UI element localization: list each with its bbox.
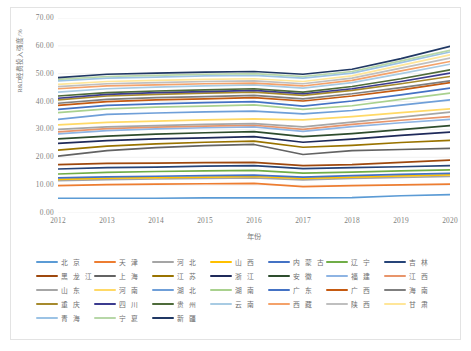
legend-color-swatch xyxy=(152,317,174,320)
legend-item[interactable]: 安 徽 xyxy=(268,271,326,281)
legend-color-swatch xyxy=(36,289,58,292)
legend-item[interactable]: 广 西 xyxy=(326,285,384,295)
x-axis-tick-label: 2013 xyxy=(87,216,127,225)
legend-item[interactable]: 江 苏 xyxy=(152,271,210,281)
x-axis-title: 年份 xyxy=(58,230,450,241)
legend-item[interactable]: 广 东 xyxy=(268,285,326,295)
legend-item[interactable]: 陕 西 xyxy=(326,299,384,309)
series-line xyxy=(58,166,450,169)
legend-item[interactable]: 湖 南 xyxy=(210,285,268,295)
data-series-group xyxy=(58,46,450,198)
legend-color-swatch xyxy=(152,275,174,278)
legend-row: 重 庆四 川贵 州云 南西 藏陕 西甘 肃 xyxy=(36,297,442,311)
x-axis-tick-label: 2019 xyxy=(381,216,421,225)
legend-color-swatch xyxy=(210,289,232,292)
legend-color-swatch xyxy=(384,261,406,264)
legend-label: 新 疆 xyxy=(177,313,198,323)
legend-color-swatch xyxy=(210,261,232,264)
legend-color-swatch xyxy=(210,275,232,278)
legend-item[interactable]: 西 藏 xyxy=(268,299,326,309)
legend-color-swatch xyxy=(36,317,58,320)
legend-item[interactable]: 上 海 xyxy=(94,271,152,281)
legend-label: 天 津 xyxy=(119,257,140,267)
x-axis-tick-label: 2017 xyxy=(283,216,323,225)
legend-item[interactable]: 浙 江 xyxy=(210,271,268,281)
x-axis-tick-label: 2015 xyxy=(185,216,225,225)
legend-row: 山 东河 南湖 北湖 南广 东广 西海 南 xyxy=(36,283,442,297)
legend-label: 黑 龙 江 xyxy=(61,271,93,281)
legend-label: 湖 南 xyxy=(235,285,256,295)
legend-item[interactable]: 山 西 xyxy=(210,257,268,267)
legend-color-swatch xyxy=(94,303,116,306)
legend-item[interactable]: 福 建 xyxy=(326,271,384,281)
legend-label: 河 北 xyxy=(177,257,198,267)
x-axis-tick-label: 2016 xyxy=(234,216,274,225)
legend-label: 青 海 xyxy=(61,313,82,323)
legend-label: 内 蒙 古 xyxy=(293,257,325,267)
legend-item[interactable]: 宁 夏 xyxy=(94,313,152,323)
legend-item[interactable]: 重 庆 xyxy=(36,299,94,309)
legend-item[interactable]: 河 南 xyxy=(94,285,152,295)
y-axis-tick-label: 10.00 xyxy=(8,180,54,189)
legend-color-swatch xyxy=(384,303,406,306)
legend-label: 辽 宁 xyxy=(351,257,372,267)
legend-label: 吉 林 xyxy=(409,257,430,267)
legend-label: 四 川 xyxy=(119,299,140,309)
legend-color-swatch xyxy=(326,275,348,278)
legend-item[interactable]: 贵 州 xyxy=(152,299,210,309)
legend-item[interactable]: 湖 北 xyxy=(152,285,210,295)
legend-item[interactable]: 甘 肃 xyxy=(384,299,442,309)
legend-item[interactable]: 内 蒙 古 xyxy=(268,257,326,267)
legend-label: 广 东 xyxy=(293,285,314,295)
legend-label: 江 西 xyxy=(409,271,430,281)
legend-item[interactable]: 辽 宁 xyxy=(326,257,384,267)
plot-area xyxy=(58,18,450,213)
series-line xyxy=(58,170,450,174)
legend-color-swatch xyxy=(152,303,174,306)
y-axis-tick-label: 20.00 xyxy=(8,152,54,161)
legend-label: 浙 江 xyxy=(235,271,256,281)
legend-label: 山 东 xyxy=(61,285,82,295)
legend-label: 云 南 xyxy=(235,299,256,309)
legend-color-swatch xyxy=(210,303,232,306)
legend-item[interactable]: 黑 龙 江 xyxy=(36,271,94,281)
legend-item[interactable]: 新 疆 xyxy=(152,313,210,323)
legend-item[interactable]: 海 南 xyxy=(384,285,442,295)
legend-color-swatch xyxy=(94,317,116,320)
x-axis-tick-label: 2020 xyxy=(430,216,470,225)
legend-item[interactable]: 天 津 xyxy=(94,257,152,267)
series-line xyxy=(58,195,450,199)
legend-item[interactable]: 云 南 xyxy=(210,299,268,309)
legend-label: 甘 肃 xyxy=(409,299,430,309)
chart-legend: 北 京天 津河 北山 西内 蒙 古辽 宁吉 林黑 龙 江上 海江 苏浙 江安 徽… xyxy=(36,255,442,325)
legend-label: 湖 北 xyxy=(177,285,198,295)
legend-color-swatch xyxy=(268,303,290,306)
legend-color-swatch xyxy=(268,289,290,292)
legend-item[interactable]: 江 西 xyxy=(384,271,442,281)
legend-color-swatch xyxy=(36,303,58,306)
chart-figure: 0.0010.0020.0030.0040.0050.0060.0070.00 … xyxy=(0,0,471,351)
y-axis-tick-label: 30.00 xyxy=(8,124,54,133)
legend-label: 河 南 xyxy=(119,285,140,295)
legend-color-swatch xyxy=(268,275,290,278)
legend-color-swatch xyxy=(384,275,406,278)
legend-item[interactable]: 山 东 xyxy=(36,285,94,295)
legend-color-swatch xyxy=(36,275,58,278)
legend-label: 海 南 xyxy=(409,285,430,295)
x-axis-tick-label: 2014 xyxy=(136,216,176,225)
legend-item[interactable]: 吉 林 xyxy=(384,257,442,267)
x-axis: 201220132014201520162017201820192020 xyxy=(58,216,450,230)
y-axis-title: R&D经费投入强度/% xyxy=(14,6,24,116)
x-axis-tick-label: 2012 xyxy=(38,216,78,225)
legend-row: 青 海宁 夏新 疆 xyxy=(36,311,442,325)
x-axis-tick-label: 2018 xyxy=(332,216,372,225)
legend-label: 陕 西 xyxy=(351,299,372,309)
legend-item[interactable]: 河 北 xyxy=(152,257,210,267)
legend-item[interactable]: 青 海 xyxy=(36,313,94,323)
legend-item[interactable]: 北 京 xyxy=(36,257,94,267)
legend-row: 北 京天 津河 北山 西内 蒙 古辽 宁吉 林 xyxy=(36,255,442,269)
legend-label: 宁 夏 xyxy=(119,313,140,323)
legend-item[interactable]: 四 川 xyxy=(94,299,152,309)
legend-label: 贵 州 xyxy=(177,299,198,309)
series-line xyxy=(58,100,450,120)
